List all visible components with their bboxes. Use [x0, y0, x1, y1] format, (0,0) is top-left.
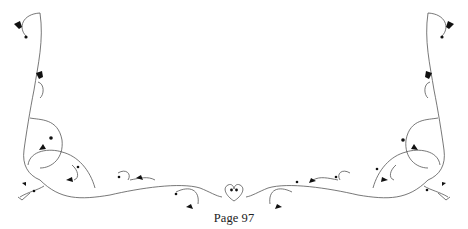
- floral-border-ornament: [0, 0, 468, 229]
- center-heart-icon: [225, 184, 243, 201]
- heart-leaf-icons: [14, 21, 454, 209]
- left-vine: [18, 13, 222, 204]
- page-number: Page 97: [0, 211, 468, 226]
- right-vine: [246, 13, 450, 204]
